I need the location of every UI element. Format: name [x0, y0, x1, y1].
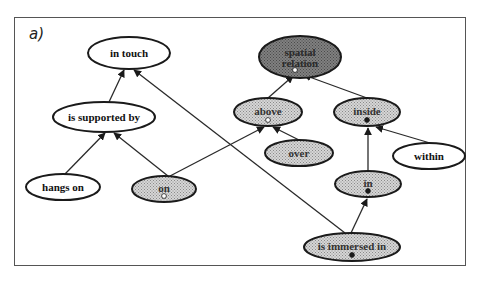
node-label: is immersed in	[318, 240, 386, 252]
node-label: within	[414, 150, 444, 162]
node-within: within	[393, 143, 465, 169]
filled-dot-marker-icon	[350, 253, 355, 258]
nodes-layer: in touchspatialrelationis supported byab…	[26, 36, 465, 261]
node-inside: inside	[334, 98, 400, 126]
node-spatial-relation: spatialrelation	[259, 36, 341, 78]
node-is-supported-by: is supported by	[53, 102, 155, 132]
edge-above-to-spatial-relation	[268, 76, 293, 98]
edges-layer	[65, 70, 430, 233]
node-label: on	[158, 182, 170, 194]
node-label: relation	[282, 57, 318, 69]
node-in-touch: in touch	[88, 37, 170, 69]
edge-inside-to-spatial-relation	[304, 75, 367, 98]
node-is-immersed-in: is immersed in	[304, 233, 400, 261]
edge-on-to-is-supported-by	[114, 133, 168, 176]
node-label: in touch	[110, 47, 148, 59]
node-label: is supported by	[68, 111, 141, 123]
node-label: inside	[353, 105, 381, 117]
edge-within-to-inside	[376, 127, 430, 143]
open-circle-marker-icon	[293, 68, 298, 73]
node-over: over	[265, 140, 333, 166]
filled-dot-marker-icon	[365, 118, 370, 123]
node-hangs-on: hangs on	[26, 174, 100, 200]
node-label: in	[363, 177, 372, 189]
figure: a) in touchspatialrelationis supported b…	[0, 0, 480, 281]
edge-is-supported-by-to-in-touch	[109, 70, 124, 102]
open-circle-marker-icon	[266, 118, 271, 123]
concept-hierarchy-diagram: in touchspatialrelationis supported byab…	[0, 0, 480, 281]
node-label: above	[254, 105, 282, 117]
edge-over-to-above	[273, 127, 299, 140]
node-above: above	[234, 98, 302, 126]
edge-hangs-on-to-is-supported-by	[65, 133, 105, 174]
node-label: over	[289, 147, 310, 159]
open-circle-marker-icon	[162, 194, 167, 199]
node-label: hangs on	[42, 181, 84, 193]
filled-dot-marker-icon	[366, 189, 371, 194]
edge-is-immersed-in-to-in	[351, 199, 367, 233]
node-on: on	[132, 176, 196, 202]
node-in: in	[335, 171, 401, 197]
